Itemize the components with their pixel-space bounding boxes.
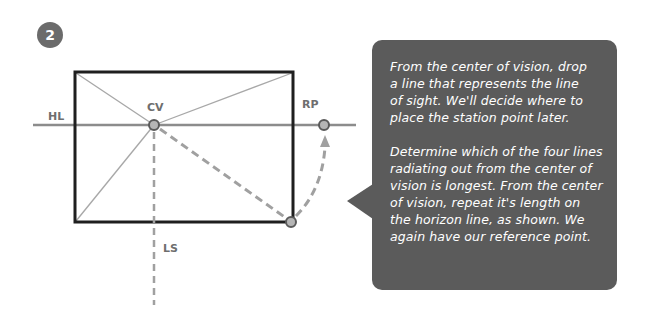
bubble-paragraph-2: Determine which of the four lines radiat… — [390, 143, 615, 245]
corner-point — [286, 217, 296, 227]
longest-line — [160, 129, 286, 218]
label-rp: RP — [302, 98, 319, 111]
cv-point — [149, 120, 159, 130]
label-cv: CV — [147, 101, 164, 114]
bubble-text: From the center of vision, drop a line t… — [390, 58, 615, 262]
bubble-paragraph-1: From the center of vision, drop a line t… — [390, 58, 615, 126]
arrowhead-icon — [320, 135, 330, 147]
transfer-arc — [296, 135, 330, 216]
step-badge: 2 — [37, 22, 63, 48]
step-number: 2 — [45, 27, 55, 43]
label-hl: HL — [48, 110, 64, 123]
rp-point — [319, 120, 329, 130]
label-ls: LS — [163, 242, 178, 255]
